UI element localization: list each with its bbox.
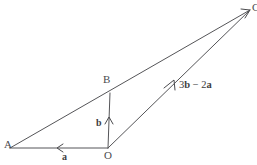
vertex-c-arrowhead — [241, 9, 250, 18]
resultant-unit-a: a — [207, 79, 212, 90]
point-label-b: B — [103, 74, 111, 85]
point-label-a: A — [4, 139, 12, 150]
resultant-operator: − — [193, 79, 199, 90]
vector-label-resultant: 3b − 2a — [179, 80, 212, 91]
resultant-unit-b: b — [184, 79, 190, 90]
point-label-o: O — [104, 150, 112, 161]
vector-diagram-canvas — [0, 0, 257, 165]
vector-diagram: A O B C a b 3b − 2a — [0, 0, 257, 165]
vector-label-a: a — [62, 152, 67, 162]
point-label-c: C — [252, 2, 257, 13]
segment-O-B — [108, 93, 110, 148]
vector-label-b: b — [96, 118, 102, 128]
